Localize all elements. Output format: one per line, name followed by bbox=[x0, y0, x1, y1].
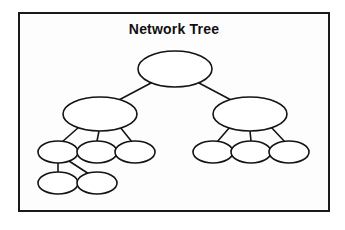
edge-r1-to-r1c2 bbox=[250, 131, 251, 141]
node-l1c2[interactable] bbox=[77, 141, 117, 163]
node-group bbox=[38, 51, 309, 194]
edge-l1-to-l1c1 bbox=[62, 127, 79, 142]
edge-root-to-r1 bbox=[199, 83, 233, 101]
edge-l1c1-to-l1c1b bbox=[69, 161, 89, 174]
node-r1[interactable] bbox=[213, 97, 287, 131]
node-l1c3[interactable] bbox=[115, 141, 155, 163]
network-tree-screenshot: Network Tree bbox=[0, 0, 345, 230]
node-r1c1[interactable] bbox=[193, 141, 233, 163]
node-r1c2[interactable] bbox=[231, 141, 271, 163]
node-root[interactable] bbox=[138, 51, 212, 87]
node-l1c1a[interactable] bbox=[38, 172, 78, 194]
edge-r1-to-r1c3 bbox=[271, 127, 285, 142]
node-l1c1[interactable] bbox=[38, 141, 78, 163]
node-l1c1b[interactable] bbox=[77, 172, 117, 194]
edge-root-to-l1 bbox=[117, 83, 151, 101]
node-r1c3[interactable] bbox=[269, 141, 309, 163]
diagram-canvas bbox=[0, 0, 345, 230]
edge-l1-to-l1c2 bbox=[97, 131, 99, 141]
edge-r1-to-r1c1 bbox=[217, 127, 230, 142]
edge-l1-to-l1c3 bbox=[120, 127, 132, 142]
node-l1[interactable] bbox=[63, 97, 137, 131]
